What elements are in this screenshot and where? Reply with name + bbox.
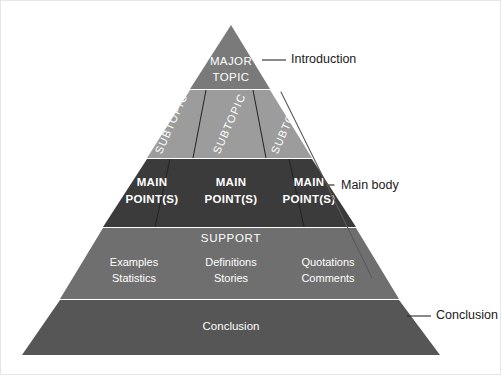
main-point-2-line1: MAIN [294,176,325,188]
support-heading: SUPPORT [201,232,261,244]
introduction-callout-label: Introduction [291,52,356,66]
band-conclusion: Conclusion [22,300,440,355]
support-col-1-line1: Definitions [205,256,257,268]
conclusion-label: Conclusion [203,320,260,332]
band-apex: MAJOR TOPIC [190,25,270,89]
main-point-2-line2: POINT(S) [283,193,336,205]
apex-label-line1: MAJOR [210,55,252,67]
diagram-canvas: Conclusion SUPPORT Examples Statistics D… [0,0,502,376]
callout-introduction: Introduction [262,52,356,66]
support-col-0-line1: Examples [110,256,159,268]
support-col-2-line1: Quotations [301,256,355,268]
pyramid-diagram: Conclusion SUPPORT Examples Statistics D… [0,0,502,376]
main-point-0-line1: MAIN [137,176,168,188]
band-support: SUPPORT Examples Statistics Definitions … [60,228,399,299]
support-col-2-line2: Comments [301,272,355,284]
conclusion-callout-label: Conclusion [436,308,498,322]
main-point-1-line2: POINT(S) [205,193,258,205]
callout-conclusion: Conclusion [407,308,498,322]
band-subtopics: SUBTOPIC SUBTOPIC SUBTOPIC [147,90,312,158]
main-point-1-line1: MAIN [216,176,247,188]
support-col-0-line2: Statistics [112,272,157,284]
band-main-points: MAIN POINT(S) MAIN POINT(S) MAIN POINT(S… [103,159,356,227]
main-body-callout-label: Main body [341,178,399,192]
support-col-1-line2: Stories [214,272,249,284]
main-point-0-line2: POINT(S) [126,193,179,205]
apex-label-line2: TOPIC [213,71,250,83]
